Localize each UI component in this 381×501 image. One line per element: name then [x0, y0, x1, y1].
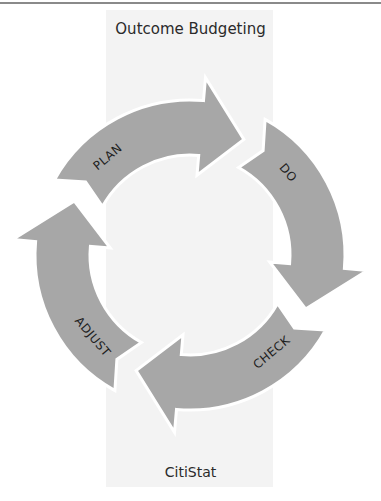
arrow-check — [136, 304, 326, 433]
cycle-diagram: PLANDOCHECKADJUST — [0, 0, 381, 501]
arrow-adjust — [13, 201, 142, 391]
arrow-plan — [54, 78, 244, 207]
diagram-footer: CitiStat — [0, 464, 381, 480]
arrow-do — [239, 119, 368, 309]
